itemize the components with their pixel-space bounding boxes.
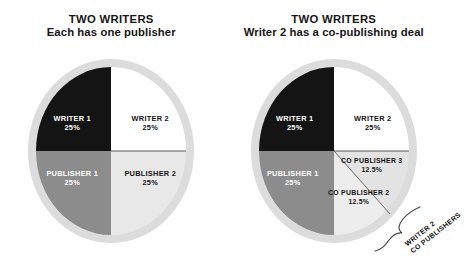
chart-title-left: TWO WRITERS Each has one publisher — [0, 13, 223, 40]
pie-chart-left-svg — [27, 58, 195, 244]
chart-title-right-line2: Writer 2 has a co-publishing deal — [223, 26, 446, 39]
chart-title-left-line1: TWO WRITERS — [0, 13, 223, 26]
pie-chart-right-svg — [250, 58, 418, 244]
pie-slice-publisher-1[interactable] — [259, 151, 334, 235]
pie-slice-writer-1[interactable] — [259, 67, 334, 151]
chart-panel-right: TWO WRITERS Writer 2 has a co-publishing… — [223, 0, 446, 276]
chart-title-left-line2: Each has one publisher — [0, 26, 223, 39]
pie-slice-writer-1[interactable] — [36, 67, 111, 151]
pie-slice-writer-2[interactable] — [111, 67, 186, 151]
pie-slice-publisher-2[interactable] — [111, 151, 186, 235]
pie-chart-right: WRITER 1 25% WRITER 2 25% PUBLISHER 1 25… — [250, 58, 418, 244]
pie-slice-writer-2[interactable] — [334, 67, 409, 151]
pie-slice-publisher-1[interactable] — [36, 151, 111, 235]
chart-title-right-line1: TWO WRITERS — [223, 13, 446, 26]
pie-chart-left: WRITER 1 25% WRITER 2 25% PUBLISHER 1 25… — [27, 58, 195, 244]
chart-panel-left: TWO WRITERS Each has one publisher WRITE… — [0, 0, 223, 276]
chart-title-right: TWO WRITERS Writer 2 has a co-publishing… — [223, 13, 446, 40]
